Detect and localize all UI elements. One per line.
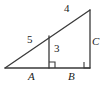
geometry-figure: 5 4 3 A B C [0, 0, 107, 88]
label-hypotenuse-upper: 4 [64, 3, 70, 14]
right-angle-mark-altitude-foot [49, 62, 55, 68]
right-angle-mark-base-right [84, 62, 90, 68]
label-base-right: B [68, 71, 75, 82]
hypotenuse-line [5, 10, 90, 68]
label-vertical-leg: C [92, 36, 99, 47]
label-base-left: A [28, 71, 35, 82]
label-altitude: 3 [54, 43, 60, 54]
label-hypotenuse-lower: 5 [27, 34, 33, 45]
